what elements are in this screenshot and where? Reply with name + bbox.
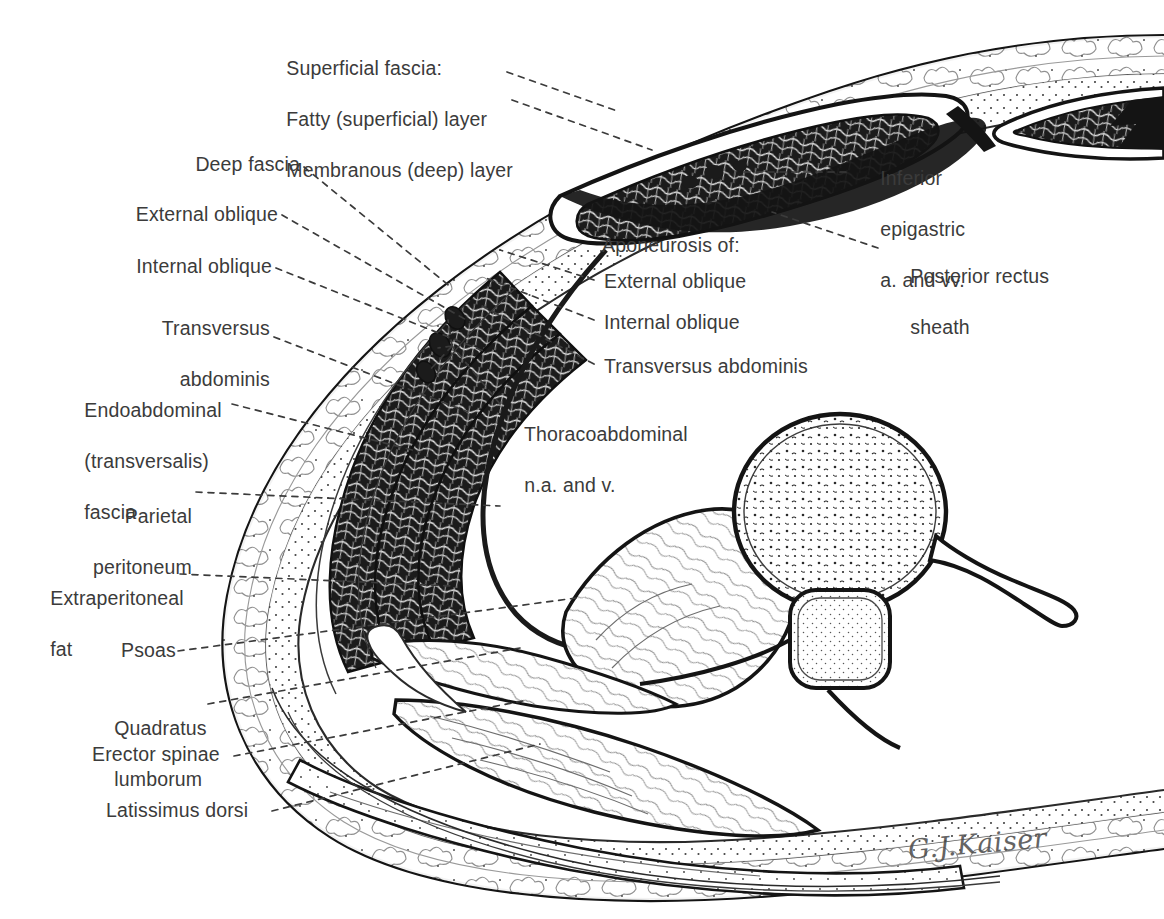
posterior-rectus-sheath-line2: sheath bbox=[910, 316, 969, 338]
extraperitoneal-fat-line1: Extraperitoneal bbox=[50, 587, 183, 609]
superficial-fascia-fatty-layer: Fatty (superficial) layer bbox=[286, 108, 487, 130]
leader-membranous-layer bbox=[512, 100, 652, 150]
superficial-fascia-heading: Superficial fascia: bbox=[286, 57, 442, 79]
inferior-epigastric-line1: Inferior bbox=[880, 167, 942, 189]
endoabdominal-line2: (transversalis) bbox=[84, 450, 209, 472]
label-aponeurosis-internal-oblique: Internal oblique bbox=[604, 310, 740, 336]
label-thoracoabdominal-nerve: Thoracoabdominal n.a. and v. bbox=[502, 396, 688, 524]
posterior-rectus-sheath-line1: Posterior rectus bbox=[910, 265, 1049, 287]
erector-spinae-muscle bbox=[394, 700, 818, 836]
endoabdominal-line1: Endoabdominal bbox=[84, 399, 221, 421]
label-internal-oblique: Internal oblique bbox=[0, 254, 272, 280]
quadratus-lumborum-line1: Quadratus bbox=[114, 717, 206, 739]
thoracoabdominal-line1: Thoracoabdominal bbox=[524, 423, 688, 445]
label-aponeurosis-transversus-abdominis: Transversus abdominis bbox=[604, 354, 808, 380]
thoracoabdominal-line2: n.a. and v. bbox=[524, 474, 615, 496]
figure-page: Superficial fascia: Fatty (superficial) … bbox=[0, 0, 1164, 919]
parietal-peritoneum-line1: Parietal bbox=[125, 505, 192, 527]
leader-fatty-layer bbox=[507, 72, 620, 112]
label-extraperitoneal-fat: Extraperitoneal fat bbox=[28, 560, 184, 688]
label-psoas: Psoas bbox=[0, 638, 176, 664]
inferior-epigastric-line2: epigastric bbox=[880, 218, 965, 240]
label-deep-fascia: Deep fascia bbox=[0, 152, 300, 178]
label-superficial-fascia: Superficial fascia: Fatty (superficial) … bbox=[264, 30, 513, 209]
label-aponeurosis-external-oblique: External oblique bbox=[604, 269, 746, 295]
label-erector-spinae: Erector spinae bbox=[92, 742, 220, 768]
label-posterior-rectus-sheath: Posterior rectus sheath bbox=[888, 238, 1049, 366]
quadratus-lumborum-line2: lumborum bbox=[114, 768, 202, 790]
label-latissimus-dorsi: Latissimus dorsi bbox=[106, 798, 248, 824]
superficial-fascia-membranous-layer: Membranous (deep) layer bbox=[286, 159, 513, 181]
label-aponeurosis-heading: Aponeurosis of: bbox=[602, 233, 740, 259]
leader-external-oblique bbox=[282, 215, 470, 322]
transversus-abdominis-line1: Transversus bbox=[162, 317, 270, 339]
label-external-oblique: External oblique bbox=[0, 202, 278, 228]
